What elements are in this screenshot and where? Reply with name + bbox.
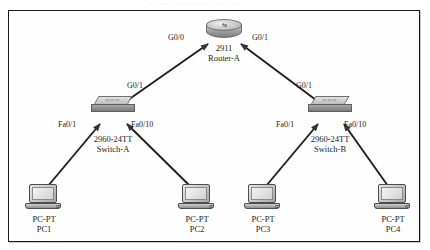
- pc2-name: PC2: [177, 224, 217, 234]
- iflabel-switch-a-fa010: Fa0/10: [131, 120, 153, 129]
- pc-icon: [25, 184, 63, 214]
- iflabel-router-g01: G0/1: [252, 33, 268, 42]
- pc-icon: [374, 184, 412, 214]
- router-a-model: 2911: [198, 43, 250, 53]
- pc3-name: PC3: [243, 224, 283, 234]
- pc3-model: PC-PT: [243, 214, 283, 224]
- switch-a-name: Switch-A: [90, 144, 136, 154]
- device-pc3[interactable]: PC-PT PC3: [243, 184, 283, 234]
- device-pc1[interactable]: PC-PT PC1: [24, 184, 64, 234]
- pc1-name: PC1: [24, 224, 64, 234]
- pc-icon: [178, 184, 216, 214]
- iflabel-switch-b-fa010: Fa0/10: [344, 120, 366, 129]
- iflabel-switch-a-uplink: G0/1: [127, 81, 143, 90]
- switch-b-model: 2960-24TT: [307, 134, 353, 144]
- page-caption-fragment: · · · · · · · · · · · · · · · · · ·: [150, 0, 428, 9]
- pc4-name: PC4: [373, 224, 413, 234]
- iflabel-switch-b-fa01: Fa0/1: [276, 120, 294, 129]
- iflabel-switch-a-fa01: Fa0/1: [58, 120, 76, 129]
- switch-icon: ▭▭▭: [307, 96, 353, 116]
- pc1-model: PC-PT: [24, 214, 64, 224]
- switch-b-name: Switch-B: [307, 144, 353, 154]
- device-pc2[interactable]: PC-PT PC2: [177, 184, 217, 234]
- router-icon: ↹: [203, 18, 245, 43]
- device-pc4[interactable]: PC-PT PC4: [373, 184, 413, 234]
- switch-ports-glyph: ▭▭▭: [316, 98, 344, 101]
- switch-ports-glyph: ▭▭▭: [99, 98, 127, 101]
- iflabel-router-g00: G0/0: [168, 33, 184, 42]
- iflabel-switch-b-uplink: G0/1: [296, 81, 312, 90]
- router-a-name: Router-A: [198, 53, 250, 63]
- switch-a-model: 2960-24TT: [90, 134, 136, 144]
- pc-icon: [244, 184, 282, 214]
- pc2-model: PC-PT: [177, 214, 217, 224]
- topology-diagram: · · · · · · · · · · · · · · · · · · ↹ 29…: [0, 0, 430, 250]
- switch-icon: ▭▭▭: [90, 96, 136, 116]
- device-router-a[interactable]: ↹ 2911 Router-A: [198, 18, 250, 63]
- device-switch-a[interactable]: ▭▭▭ 2960-24TT Switch-A: [90, 96, 136, 154]
- router-arrows-glyph: ↹: [212, 21, 236, 29]
- pc4-model: PC-PT: [373, 214, 413, 224]
